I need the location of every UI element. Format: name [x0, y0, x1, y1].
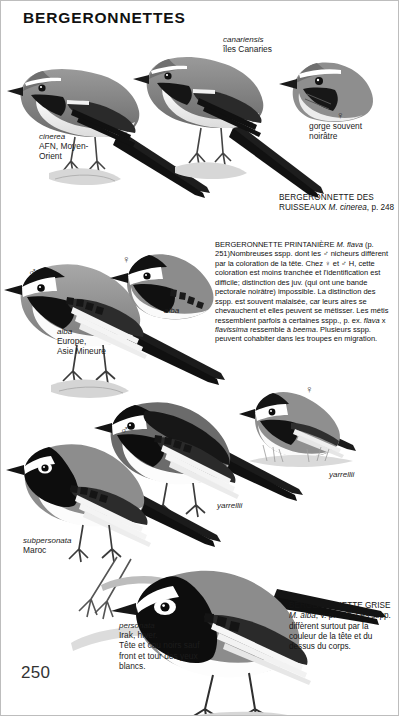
label-cinerea-region: AFN, Moyen- Orient — [39, 141, 88, 162]
gender-symbol-female-canariensis: ♀ — [336, 109, 344, 121]
bird-illustration-alba-female — [119, 245, 219, 335]
field-guide-page: BERGERONNETTES — [0, 0, 399, 716]
text-printaniere-title-pre: BERGERONNETTE PRINTANIÈRE — [215, 240, 337, 249]
label-canariensis-region: îles Canaries — [223, 44, 272, 54]
caption-grise-sci: M. alba — [289, 611, 316, 620]
caption-ruisseaux-head: BERGERONNETTE DES — [279, 193, 374, 202]
text-bergeronnette-printaniere: BERGERONNETTE PRINTANIÈRE M. flava (p. 2… — [215, 240, 395, 344]
caption-ruisseaux-line2-post: , p. 248 — [367, 203, 394, 212]
label-personata-notes: Irak, hiver. Tête et cou noirs sauf fron… — [119, 630, 200, 671]
caption-bergeronnette-grise: BERGERONNETTE GRISE M. alba, v. p. 248. … — [289, 601, 397, 652]
gender-symbol-male-alba: ♂ — [28, 265, 37, 279]
text-printaniere-inline-sci-2: flavissima — [215, 325, 248, 334]
caption-grise-head-pre: BERGERONNETTE GRISE — [289, 601, 390, 610]
caption-ruisseaux-line2-pre: RUISSEAUX — [279, 203, 329, 212]
label-alba-europe-region: Europe, Asie Mineure — [57, 336, 106, 357]
caption-ruisseaux-sci: M. cinerea — [329, 203, 367, 212]
caption-grise-head-post: , — [316, 611, 318, 620]
text-printaniere-inline-sci-3: beema — [293, 325, 316, 334]
text-printaniere-para-1: Nombreuses sspp. dont les ♂ nicheurs dif… — [215, 249, 388, 324]
text-printaniere-para-1b: x — [380, 316, 386, 325]
text-printaniere-title-sci: M. flava — [337, 240, 363, 249]
label-gorge-souvent-noiratre: gorge souvent noirâtre — [309, 121, 362, 142]
label-yarrellii-centre: yarrellii — [217, 501, 242, 511]
caption-bergeronnette-des-ruisseaux: BERGERONNETTE DES RUISSEAUX M. cinerea, … — [279, 193, 397, 214]
label-subpersonata-region: Maroc — [23, 545, 46, 555]
text-printaniere-para-1c: ressemble à — [248, 325, 293, 334]
page-title: BERGERONNETTES — [23, 9, 186, 27]
bird-illustration-canariensis-female-head — [289, 49, 377, 129]
page-number: 250 — [21, 663, 50, 683]
text-printaniere-inline-sci-1: flava — [364, 316, 380, 325]
label-alba-female-sci: alba — [164, 306, 179, 316]
label-yarrellii-right: yarrellii — [329, 470, 354, 480]
gender-symbol-female-alba: ♀ — [122, 253, 130, 265]
